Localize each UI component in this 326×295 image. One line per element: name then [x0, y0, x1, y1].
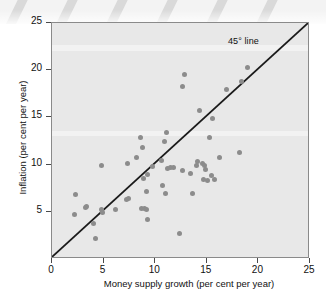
x-axis-tick: [309, 258, 310, 263]
x-axis-tick-label: 15: [194, 264, 218, 275]
y-axis-tick: [46, 22, 51, 23]
data-point: [125, 161, 130, 166]
y-axis-tick: [46, 211, 51, 212]
x-axis-tick-label: 5: [91, 264, 115, 275]
data-point: [180, 84, 185, 89]
scatter-chart-figure: 45° line 0510152025510152025 Money suppl…: [0, 0, 326, 295]
data-point: [224, 87, 229, 92]
data-point: [188, 171, 193, 176]
y-axis-tick: [46, 164, 51, 165]
x-axis-tick: [206, 258, 207, 263]
data-point: [160, 183, 165, 188]
y-axis-tick: [46, 69, 51, 70]
reference-line-annotation: 45° line: [228, 36, 259, 46]
data-point: [138, 135, 143, 140]
data-point: [194, 163, 199, 168]
data-point: [180, 168, 185, 173]
data-point: [212, 177, 217, 182]
data-point: [162, 139, 167, 144]
data-point: [150, 164, 155, 169]
data-point: [91, 221, 96, 226]
x-axis-tick: [257, 258, 258, 263]
data-point: [245, 65, 250, 70]
x-axis-tick: [154, 258, 155, 263]
data-point: [84, 204, 89, 209]
y-axis-title: Inflation (per cent per year): [17, 38, 28, 238]
x-axis-tick: [51, 258, 52, 263]
x-axis-tick-label: 0: [39, 264, 63, 275]
data-point: [217, 155, 222, 160]
x-axis-tick: [103, 258, 104, 263]
x-axis-tick-label: 10: [142, 264, 166, 275]
x-axis-tick-label: 25: [297, 264, 321, 275]
plot-area: [51, 22, 309, 258]
y-axis-tick-label: 25: [16, 15, 42, 26]
x-axis-tick-label: 20: [245, 264, 269, 275]
x-axis-title: Money supply growth (per cent per year): [0, 278, 326, 289]
data-point: [126, 196, 131, 201]
data-point: [93, 236, 98, 241]
y-axis-tick: [46, 116, 51, 117]
plot-inner: [52, 23, 308, 257]
